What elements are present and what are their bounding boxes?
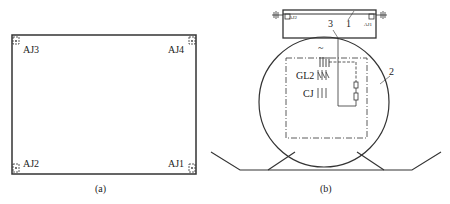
label-cj: CJ (303, 88, 314, 99)
label-aj1: AJ1 (168, 158, 184, 169)
callout-1: 1 (346, 18, 351, 29)
label-aj3: AJ3 (23, 44, 39, 55)
diagram-canvas: AJ3 AJ4 AJ2 AJ1 (a) (0, 0, 450, 204)
tank-body (259, 37, 389, 167)
label-gl2: GL2 (296, 70, 314, 81)
figure-a (12, 35, 196, 174)
label-aj2: AJ2 (23, 158, 39, 169)
label-aj1-b: AJ1 (364, 22, 373, 27)
panel-outline (12, 35, 196, 174)
resistor-2-icon (354, 93, 358, 100)
callout-2: 2 (389, 66, 394, 77)
figure-b (211, 10, 441, 170)
sensor-aj1-b-icon (369, 14, 374, 19)
ground-left-icon (272, 11, 283, 19)
cj-contact-icon (318, 88, 326, 98)
ground-right-icon (376, 11, 387, 19)
label-aj2-b: AJ2 (289, 15, 298, 20)
callout-3: 3 (328, 18, 333, 29)
ac-symbol: ~ (318, 42, 324, 53)
caption-b: (b) (320, 183, 332, 195)
resistor-1-icon (354, 82, 358, 88)
caption-a: (a) (95, 183, 106, 195)
label-aj4: AJ4 (168, 44, 184, 55)
gl2-switch-icon (318, 70, 329, 80)
